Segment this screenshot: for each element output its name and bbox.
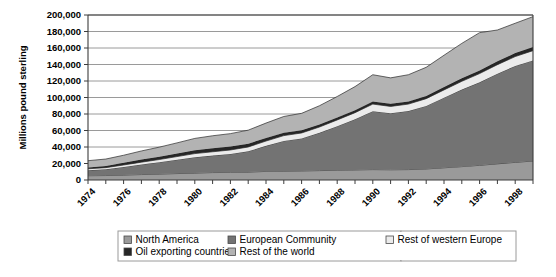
y-tick-label: 120,000 [47,75,81,86]
chart-canvas: 020,00040,00060,00080,000100,000120,0001… [0,0,556,277]
x-tick-label: 1990 [359,186,382,209]
legend-swatch-2 [228,236,236,244]
x-tick-label: 1998 [502,186,525,209]
x-tick-label: 1982 [217,186,240,209]
y-tick-label: 140,000 [47,59,81,70]
y-tick-label: 0 [76,174,81,185]
y-tick-label: 100,000 [47,92,81,103]
y-tick-label: 20,000 [52,158,81,169]
y-tick-label: 40,000 [52,141,81,152]
y-axis-ticks: 020,00040,00060,00080,000100,000120,0001… [47,9,88,185]
legend-swatch-4 [124,248,132,256]
y-axis-title: Millions pound sterling [17,45,28,149]
x-tick-label: 1978 [146,186,169,209]
legend-label-1: North America [136,234,200,245]
legend-label-2: European Community [240,234,337,245]
x-tick-label: 1994 [431,185,454,208]
y-tick-label: 160,000 [47,42,81,53]
x-tick-label: 1992 [395,186,418,209]
legend-swatch-1 [124,236,132,244]
x-tick-label: 1976 [110,186,133,209]
x-tick-label: 1986 [288,186,311,209]
legend-label-3: Rest of western Europe [398,234,503,245]
legend: North AmericaEuropean CommunityRest of w… [118,231,516,261]
x-tick-label: 1974 [75,185,98,208]
stacked-area-chart: 020,00040,00060,00080,000100,000120,0001… [0,0,556,277]
x-tick-label: 1996 [466,186,489,209]
y-tick-label: 60,000 [52,125,81,136]
y-tick-label: 80,000 [52,108,81,119]
y-tick-label: 200,000 [47,9,81,20]
x-tick-label: 1984 [253,185,276,208]
x-tick-label: 1980 [181,186,204,209]
x-tick-label: 1988 [324,186,347,209]
legend-label-4: Oil exporting countries [136,246,236,257]
legend-swatch-3 [386,236,394,244]
x-axis-ticks: 1974197619781980198219841986198819901992… [75,180,533,208]
legend-swatch-5 [228,248,236,256]
y-tick-label: 180,000 [47,26,81,37]
legend-label-5: Rest of the world [240,246,315,257]
